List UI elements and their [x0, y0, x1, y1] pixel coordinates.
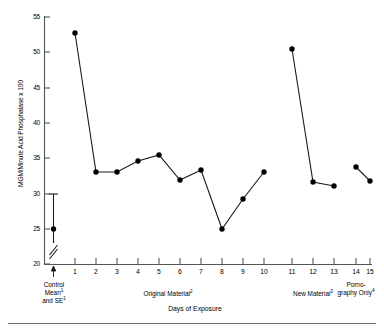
x-tick-label: 3: [109, 268, 125, 275]
footnote-marker: 1: [63, 296, 66, 301]
y-axis-title: MGM/Minute Acid Phosphatase x 100: [17, 54, 24, 214]
chart-figure: 55 50 45 40 35 30 25 20 MGM/Minute Acid …: [0, 0, 384, 330]
group-label-pornography-line1: Porno-: [328, 281, 384, 289]
group-label-control-line3: and SE1: [30, 297, 78, 305]
x-tick-label: 9: [235, 268, 251, 275]
control-mean-marker: [51, 226, 56, 231]
y-tick-label: 20: [24, 261, 40, 268]
chart-plot-area: 55 50 45 40 35 30 25 20 MGM/Minute Acid …: [0, 0, 384, 330]
y-tick-label: 55: [24, 14, 40, 21]
bottom-divider: [8, 323, 376, 324]
group-label-control-line2: Mean1: [30, 289, 78, 297]
y-tick-label: 25: [24, 226, 40, 233]
group-label-control-line1: Control: [30, 281, 78, 289]
x-tick-label: 10: [256, 268, 272, 275]
series-new-material-line: [292, 49, 334, 186]
y-tick-label: 35: [24, 155, 40, 162]
x-tick-label: 8: [214, 268, 230, 275]
x-tick-label: 5: [151, 268, 167, 275]
x-tick-label: 4: [130, 268, 146, 275]
series-pornography-only-line: [356, 167, 370, 181]
y-tick-label: 30: [24, 191, 40, 198]
group-label-pornography-line2: graphy Only4: [328, 289, 384, 297]
series-original-material-markers: [72, 30, 266, 231]
y-tick-label: 45: [24, 85, 40, 92]
x-tick-label: 12: [305, 268, 321, 275]
group-label-original-material: Original Material2: [113, 290, 223, 298]
x-tick-label: 11: [284, 268, 300, 275]
x-tick-label: 13: [326, 268, 342, 275]
x-tick-label: 6: [172, 268, 188, 275]
x-tick-label: 2: [88, 268, 104, 275]
axis-break-icon: [50, 245, 58, 259]
footnote-marker: 4: [372, 288, 375, 293]
series-new-material-markers: [289, 46, 336, 188]
x-tick-label: 15: [362, 268, 378, 275]
control-error-bar: [49, 194, 58, 243]
footnote-marker: 2: [190, 289, 193, 294]
y-axis-ticks: [45, 17, 51, 264]
x-tick-label: 1: [67, 268, 83, 275]
y-tick-label: 50: [24, 49, 40, 56]
x-axis-title: Days of Exposure: [140, 305, 250, 312]
series-original-material-line: [75, 33, 264, 229]
footnote-marker: 1: [61, 288, 64, 293]
y-tick-label: 40: [24, 120, 40, 127]
control-arrow-icon: [51, 266, 55, 277]
group-label-control: Control Mean1 and SE1: [30, 281, 78, 305]
x-axis-ticks: [75, 258, 370, 265]
x-tick-label: 7: [193, 268, 209, 275]
group-label-pornography-only: Porno- graphy Only4: [328, 281, 384, 297]
